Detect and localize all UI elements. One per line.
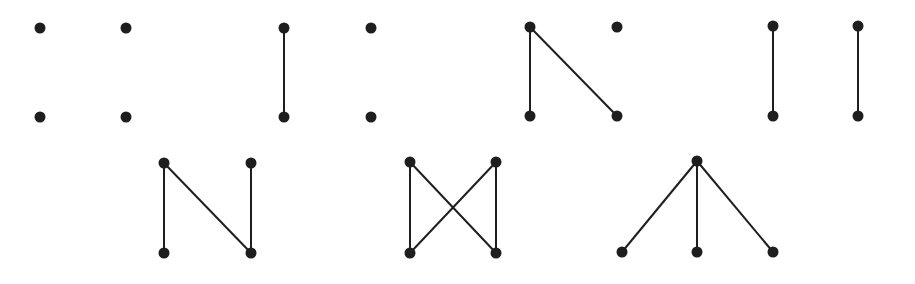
vertex xyxy=(35,112,46,123)
graph-1 xyxy=(35,23,132,123)
graph-7 xyxy=(617,156,779,258)
vertex xyxy=(692,156,703,167)
edge xyxy=(530,27,617,116)
graph-5 xyxy=(159,158,257,259)
vertex xyxy=(525,111,536,122)
vertex xyxy=(768,21,779,32)
vertex xyxy=(768,247,779,258)
vertex xyxy=(121,23,132,34)
vertex xyxy=(366,23,377,34)
vertex xyxy=(853,111,864,122)
vertex xyxy=(246,158,257,169)
vertex xyxy=(366,112,377,123)
graph-2 xyxy=(279,23,377,123)
graph-3 xyxy=(525,22,623,122)
vertex xyxy=(491,248,502,259)
vertex xyxy=(768,111,779,122)
graphs-diagram xyxy=(0,0,915,284)
vertex xyxy=(612,22,623,33)
vertex xyxy=(121,112,132,123)
vertex xyxy=(617,247,628,258)
edge xyxy=(697,161,773,252)
vertex xyxy=(612,111,623,122)
graph-6 xyxy=(405,157,502,259)
vertex xyxy=(692,247,703,258)
graph-4 xyxy=(768,21,864,122)
edge xyxy=(164,163,251,253)
vertex xyxy=(405,157,416,168)
vertex xyxy=(853,21,864,32)
vertex xyxy=(279,112,290,123)
vertex xyxy=(525,22,536,33)
vertex xyxy=(246,248,257,259)
vertex xyxy=(35,23,46,34)
vertex xyxy=(405,248,416,259)
edge xyxy=(622,161,697,252)
vertex xyxy=(279,23,290,34)
vertex xyxy=(491,157,502,168)
vertex xyxy=(159,248,170,259)
vertex xyxy=(159,158,170,169)
